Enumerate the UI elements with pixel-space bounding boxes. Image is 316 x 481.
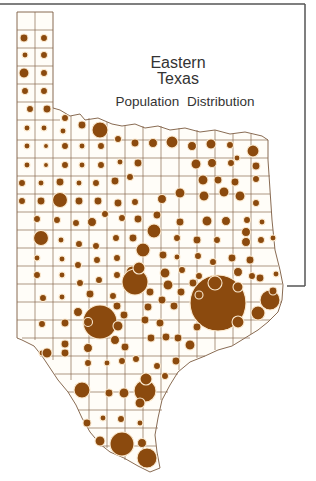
map-subtitle: Population Distribution	[104, 95, 266, 109]
map-title-line2: Texas	[118, 71, 238, 87]
map-title-line1: Eastern	[118, 55, 238, 71]
